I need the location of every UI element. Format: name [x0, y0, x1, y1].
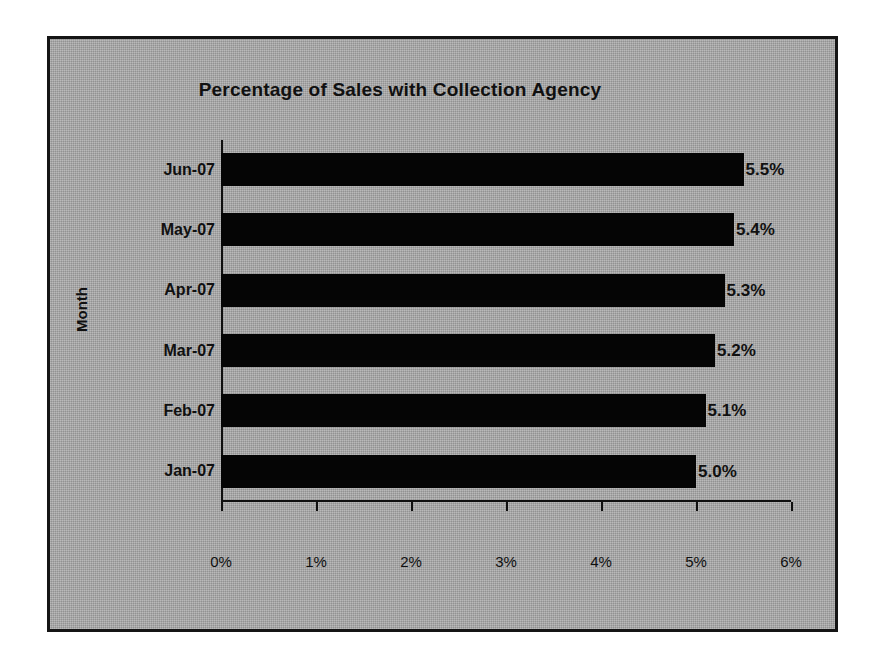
bar-value-label: 5.3%	[725, 274, 766, 307]
bar-row: 5.0%	[221, 442, 791, 502]
x-axis-tick-label: 2%	[381, 553, 441, 570]
bar-value-label: 5.1%	[706, 394, 747, 427]
bar[interactable]	[221, 334, 715, 367]
x-axis-tick-label: 4%	[571, 553, 631, 570]
x-axis-tick-label: 1%	[286, 553, 346, 570]
bar-value-label: 5.4%	[734, 213, 775, 246]
x-axis-tick-label: 3%	[476, 553, 536, 570]
x-axis-tick-mark	[316, 502, 318, 511]
x-axis-tick-mark	[601, 502, 603, 511]
plot-area: 5.5%5.4%5.3%5.2%5.1%5.0% 0%1%2%3%4%5%6%	[221, 140, 791, 502]
x-axis-tick-mark	[221, 502, 223, 511]
bar-row: 5.2%	[221, 321, 791, 381]
chart-title: Percentage of Sales with Collection Agen…	[50, 79, 750, 101]
x-axis-tick-label: 0%	[191, 553, 251, 570]
chart-frame: Percentage of Sales with Collection Agen…	[47, 36, 838, 632]
y-axis-tick-labels: Jun-07May-07Apr-07Mar-07Feb-07Jan-07	[81, 140, 215, 502]
x-axis-tick-label: 5%	[666, 553, 726, 570]
bar-value-label: 5.2%	[715, 334, 756, 367]
bar[interactable]	[221, 455, 696, 488]
bar-row: 5.5%	[221, 140, 791, 200]
bar[interactable]	[221, 274, 725, 307]
x-axis-tick-mark	[506, 502, 508, 511]
y-axis-tick-label: Apr-07	[75, 280, 215, 300]
y-axis-tick-label: Mar-07	[75, 341, 215, 361]
y-axis-tick-label: May-07	[75, 220, 215, 240]
bar-row: 5.3%	[221, 261, 791, 321]
bar-value-label: 5.0%	[696, 455, 737, 488]
bar[interactable]	[221, 394, 706, 427]
bar-value-label: 5.5%	[744, 153, 785, 186]
bar[interactable]	[221, 153, 744, 186]
y-axis-tick-label: Feb-07	[75, 401, 215, 421]
x-axis-tick-label: 6%	[761, 553, 821, 570]
y-axis-tick-label: Jan-07	[75, 461, 215, 481]
x-axis-tick-mark	[791, 502, 793, 511]
y-axis-tick-label: Jun-07	[75, 160, 215, 180]
bar-row: 5.1%	[221, 381, 791, 441]
x-axis-tick-mark	[696, 502, 698, 511]
bar[interactable]	[221, 213, 734, 246]
x-axis-tick-mark	[411, 502, 413, 511]
bar-row: 5.4%	[221, 200, 791, 260]
